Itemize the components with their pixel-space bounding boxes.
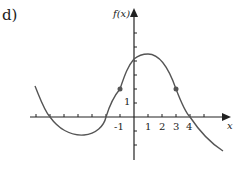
x-tick-4: 4: [186, 121, 192, 132]
y-axis-label: f(x): [113, 8, 130, 19]
y-tick-1: 1: [124, 96, 130, 107]
x-tick-3: 3: [173, 121, 179, 132]
plot: [0, 0, 235, 169]
x-tick-1: 1: [145, 121, 151, 132]
point-neg1: [118, 87, 123, 92]
x-axis-label: x: [227, 120, 233, 131]
y-arrow-icon: [130, 8, 138, 17]
x-tick-2: 2: [159, 121, 165, 132]
chart: d) f(x) x -1 1 2 3 4 1: [0, 0, 235, 169]
x-tick-neg1: -1: [114, 121, 124, 132]
point-3: [174, 87, 179, 92]
